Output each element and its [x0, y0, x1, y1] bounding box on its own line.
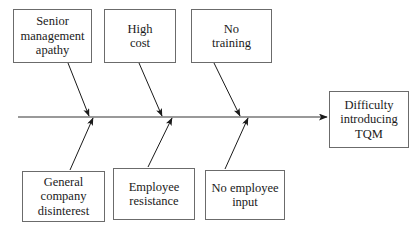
cause-label: General company disinterest [38, 175, 89, 219]
cause-label: No training [212, 22, 251, 51]
cause-label: High cost [128, 22, 153, 51]
bone-arrow-bottom-1 [70, 118, 93, 170]
cause-box-high-cost: High cost [104, 9, 176, 63]
cause-box-senior-management-apathy: Senior management apathy [13, 9, 92, 63]
cause-box-no-training: No training [191, 9, 272, 63]
bottom-bone-arrows [70, 118, 248, 170]
cause-box-employee-resistance: Employee resistance [113, 168, 195, 220]
cause-box-general-company-disinterest: General company disinterest [22, 171, 105, 222]
bone-arrow-top-1 [68, 63, 89, 116]
bone-arrow-top-2 [139, 63, 162, 116]
cause-label: Senior management apathy [21, 14, 85, 58]
cause-label: Employee resistance [129, 180, 180, 209]
top-bone-arrows [68, 63, 240, 116]
cause-box-no-employee-input: No employee input [205, 170, 285, 220]
effect-box-difficulty-introducing-tqm: Difficulty introducing TQM [329, 91, 409, 148]
bone-arrow-bottom-2 [148, 118, 172, 167]
cause-label: No employee input [212, 181, 279, 210]
fishbone-diagram: Senior management apathy High cost No tr… [0, 0, 416, 232]
effect-label: Difficulty introducing TQM [340, 98, 398, 142]
bone-arrow-top-3 [214, 63, 240, 116]
bone-arrow-bottom-3 [225, 118, 248, 169]
